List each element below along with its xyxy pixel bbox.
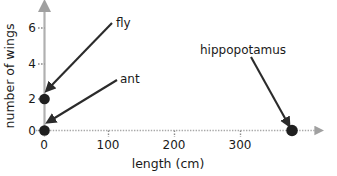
y-axis-title: number of wings <box>4 24 17 129</box>
hippopotamus-annotation-arrow <box>251 57 286 120</box>
data-point-fly <box>39 94 50 105</box>
x-axis-tick-label-200: 200 <box>163 139 186 151</box>
data-point-hippopotamus <box>286 125 298 137</box>
fly-annotation-arrow <box>51 23 112 86</box>
x-axis-tick-label-100: 100 <box>97 139 120 151</box>
x-axis-tick-label-300: 300 <box>229 139 252 151</box>
y-axis-tick-label-4: 4 <box>22 58 36 70</box>
data-point-ant <box>39 125 50 136</box>
annotation-label-ant: ant <box>120 73 140 85</box>
y-axis-tick-label-6: 6 <box>22 22 36 34</box>
ant-annotation-arrow <box>53 80 117 119</box>
x-axis-tick-label-0: 0 <box>40 139 48 151</box>
x-axis-title: length (cm) <box>132 158 205 171</box>
annotation-label-fly: fly <box>116 17 131 29</box>
wings-vs-length-scatter-chart: 0 100 200 300 0 2 4 6 length (cm) number… <box>0 0 337 176</box>
annotation-label-hippopotamus: hippopotamus <box>200 44 286 56</box>
y-axis-tick-label-2: 2 <box>22 93 36 105</box>
y-axis-tick-label-0: 0 <box>22 125 36 137</box>
